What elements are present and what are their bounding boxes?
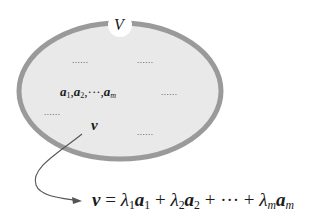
placeholder-dots: ...... bbox=[72, 56, 89, 65]
placeholder-dots: ...... bbox=[137, 56, 154, 65]
placeholder-dots: ...... bbox=[137, 128, 154, 137]
vector-space-ellipse bbox=[19, 23, 221, 159]
placeholder-dots: ...... bbox=[44, 108, 61, 117]
basis-vectors: a1,a2,···,am bbox=[60, 85, 116, 100]
arrowhead-icon bbox=[72, 197, 82, 204]
vector-v: v bbox=[91, 118, 98, 133]
placeholder-dots: ...... bbox=[161, 88, 178, 97]
linear-combination-equation: v = λ1a1 + λ2a2 + ··· + λmam bbox=[92, 190, 294, 212]
set-label-V: V bbox=[114, 17, 124, 33]
